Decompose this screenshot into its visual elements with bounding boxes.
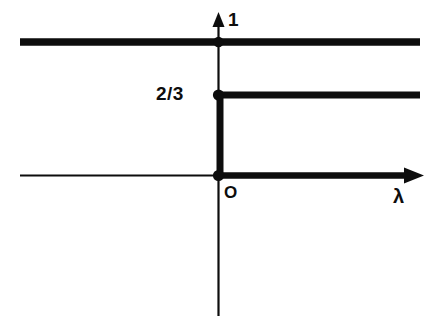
x-axis-label-lambda: λ: [393, 186, 404, 206]
node-marker-origin: [213, 170, 224, 181]
figure-canvas: 1 2/3 O λ: [0, 0, 438, 321]
arrow-up-icon: [213, 12, 225, 27]
node-marker-value-twothirds: [213, 89, 224, 100]
y-axis-label-one: 1: [228, 10, 239, 29]
node-marker-value-one: [213, 37, 223, 47]
step-function-plot: [0, 0, 438, 321]
arrow-right-icon: [404, 168, 424, 184]
origin-label: O: [224, 184, 237, 201]
y-axis-label-twothirds: 2/3: [156, 84, 184, 103]
